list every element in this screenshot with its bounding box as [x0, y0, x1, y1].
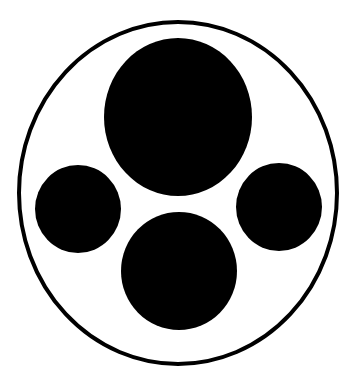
top-large-circle	[104, 38, 252, 196]
right-circle	[236, 163, 322, 251]
left-circle	[35, 165, 121, 253]
bottom-circle	[121, 212, 237, 330]
circle-emblem	[0, 0, 355, 384]
